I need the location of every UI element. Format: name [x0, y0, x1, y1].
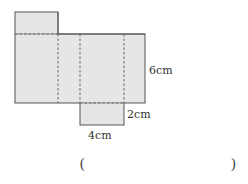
cuboid-net-diagram: 6cm 2cm 4cm ( ) — [0, 0, 248, 184]
top-flap — [15, 12, 58, 34]
bottom-flap — [80, 103, 124, 125]
height-label: 6cm — [149, 64, 173, 77]
answer-open-paren: ( — [80, 156, 85, 172]
answer-close-paren: ) — [231, 156, 236, 172]
width-label: 4cm — [88, 129, 112, 142]
depth-label: 2cm — [127, 108, 151, 121]
